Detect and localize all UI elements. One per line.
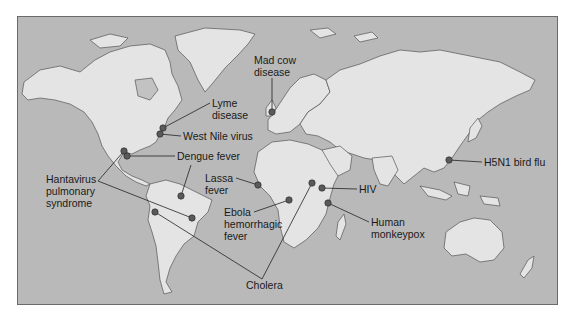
- marker-hantavirus-brazil: [189, 215, 195, 221]
- madagascar: [336, 214, 346, 240]
- australia: [444, 218, 504, 262]
- label-lyme: Lyme disease: [212, 97, 248, 121]
- label-west-nile: West Nile virus: [183, 130, 253, 142]
- india: [372, 156, 398, 186]
- label-hiv: HIV: [359, 183, 377, 195]
- marker-ebola: [286, 197, 292, 203]
- north-america: [22, 44, 182, 186]
- greenland: [175, 28, 255, 92]
- label-hantavirus: Hantavirus pulmonary syndrome: [46, 173, 96, 209]
- new-zealand: [520, 256, 534, 278]
- label-cholera: Cholera: [246, 279, 283, 291]
- label-mad-cow: Mad cow disease: [254, 54, 296, 78]
- marker-cholera-peru: [152, 209, 158, 215]
- label-dengue: Dengue fever: [177, 150, 240, 162]
- marker-dengue-guiana: [178, 193, 184, 199]
- marker-lyme: [160, 125, 166, 131]
- marker-mad-cow: [269, 109, 275, 115]
- marker-monkeypox: [325, 200, 331, 206]
- marker-dengue-mexico-2: [124, 153, 130, 159]
- marker-h5n1: [446, 157, 452, 163]
- label-lassa: Lassa fever: [205, 172, 233, 196]
- marker-cholera-africa: [309, 180, 315, 186]
- marker-hiv: [319, 185, 325, 191]
- marker-lassa: [255, 182, 261, 188]
- label-h5n1: H5N1 bird flu: [484, 156, 545, 168]
- label-monkeypox: Human monkeypox: [371, 216, 425, 240]
- marker-west-nile: [157, 131, 163, 137]
- label-ebola: Ebola hemorrhagic fever: [224, 206, 282, 242]
